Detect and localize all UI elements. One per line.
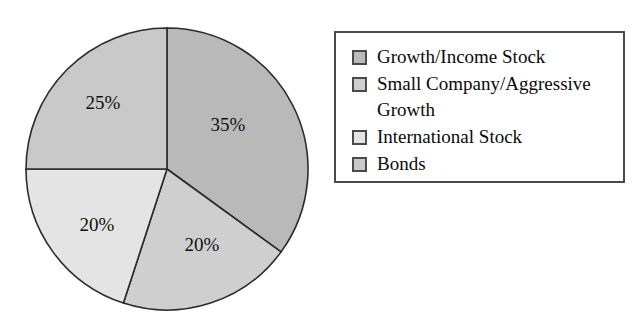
pie-slice-label: 20% [80, 214, 115, 235]
legend-swatch-icon [352, 130, 367, 145]
legend-item-label: Bonds [377, 151, 426, 177]
legend-item-label: Small Company/Aggressive Growth [377, 71, 617, 123]
pie-slice-label: 25% [86, 92, 121, 113]
pie-slice-group [26, 28, 308, 310]
legend-item[interactable]: Bonds [352, 151, 617, 177]
legend-item[interactable]: International Stock [352, 124, 617, 150]
legend-swatch-icon [352, 50, 367, 65]
legend-swatch-icon [352, 77, 367, 92]
pie-chart-figure: 35%20%20%25% Growth/Income StockSmall Co… [0, 0, 640, 328]
legend-list: Growth/Income StockSmall Company/Aggress… [352, 44, 617, 178]
pie-slice-label: 20% [185, 234, 220, 255]
legend-swatch-icon [352, 157, 367, 172]
legend-item[interactable]: Growth/Income Stock [352, 44, 617, 70]
legend-item-label: Growth/Income Stock [377, 44, 545, 70]
pie-svg: 35%20%20%25% [0, 0, 340, 328]
legend-item-label: International Stock [377, 124, 522, 150]
legend-box: Growth/Income StockSmall Company/Aggress… [334, 31, 625, 183]
pie-slice-label: 35% [211, 114, 246, 135]
pie-chart-area: 35%20%20%25% [0, 0, 340, 328]
legend-item[interactable]: Small Company/Aggressive Growth [352, 71, 617, 123]
